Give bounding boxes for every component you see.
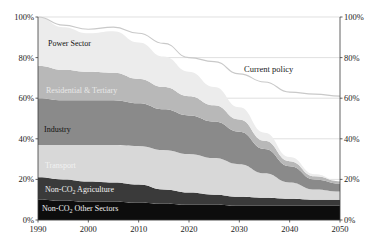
x-tick-label: 2050: [332, 224, 349, 234]
stacked-area-chart: 0%0%20%20%40%40%60%60%80%80%100%100%1990…: [0, 0, 387, 249]
band-label: Power Sector: [48, 39, 91, 48]
x-tick-label: 2030: [231, 224, 248, 234]
x-tick-label: 2010: [130, 224, 147, 234]
chart-annotations: Current policy: [244, 64, 294, 74]
x-tick-label: 2040: [281, 224, 298, 234]
y-tick-label-right: 100%: [344, 12, 364, 22]
chart-svg: 0%0%20%20%40%40%60%60%80%80%100%100%1990…: [0, 0, 387, 249]
band-label: Industry: [44, 125, 71, 134]
y-tick-label-right: 40%: [344, 134, 360, 144]
y-tick-label-right: 20%: [344, 174, 360, 184]
y-tick-label-left: 20%: [18, 174, 34, 184]
x-tick-label: 2000: [80, 224, 97, 234]
y-tick-label-left: 60%: [18, 93, 34, 103]
band-label: Residential & Tertiary: [46, 86, 117, 95]
current-policy-label: Current policy: [244, 64, 294, 74]
band-label: Transport: [45, 161, 77, 170]
y-tick-label-right: 60%: [344, 93, 360, 103]
x-tick-label: 2020: [181, 224, 198, 234]
band-label: Non-CO2 Other Sectors: [42, 204, 118, 214]
y-tick-label-left: 100%: [14, 12, 34, 22]
y-tick-label-left: 80%: [18, 53, 34, 63]
band-label: Non-CO2 Agriculture: [45, 185, 114, 195]
y-tick-label-left: 40%: [18, 134, 34, 144]
y-tick-label-right: 80%: [344, 53, 360, 63]
x-tick-label: 1990: [30, 224, 47, 234]
chart-page: 0%0%20%20%40%40%60%60%80%80%100%100%1990…: [0, 0, 387, 249]
